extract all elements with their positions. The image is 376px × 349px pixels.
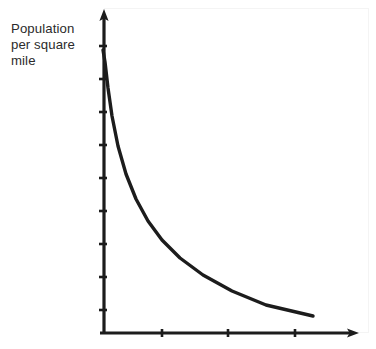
chart-figure: Population per square mile (0, 0, 376, 349)
data-curve-population-density (103, 50, 313, 316)
chart-canvas (0, 0, 376, 349)
